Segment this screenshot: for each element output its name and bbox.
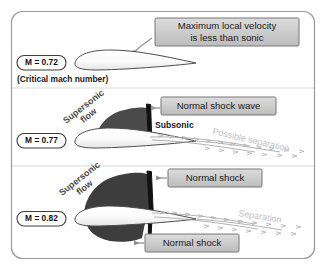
callout-max-local-velocity[interactable]: Maximum local velocity is less than soni… [155, 18, 299, 46]
callout-line-1: Normal shock [186, 172, 245, 183]
label-possible-separation: Possible separation [212, 126, 291, 153]
mach-badge-072: M = 0.72 [17, 56, 66, 71]
mach-badge-082: M = 0.82 [17, 212, 66, 227]
airfoil-shape [75, 128, 196, 148]
mach-badge-077: M = 0.77 [17, 134, 66, 149]
mach-badge-label: M = 0.82 [25, 213, 58, 223]
airfoil-shape [75, 206, 196, 226]
figure-canvas: M = 0.72 (Critical mach number) Maximum … [0, 0, 326, 270]
airfoil-shape [75, 50, 196, 70]
panel-mach-082: M = 0.82 Supersonic flow Separation Norm… [17, 160, 301, 252]
callout-normal-shock-wave[interactable]: Normal shock wave [161, 97, 276, 115]
separation-label-text: Possible separation [212, 126, 291, 153]
panel-mach-072: M = 0.72 (Critical mach number) Maximum … [17, 18, 299, 84]
mach-badge-label: M = 0.77 [25, 135, 58, 145]
critical-mach-caption: (Critical mach number) [17, 74, 108, 84]
transonic-flow-figure: M = 0.72 (Critical mach number) Maximum … [0, 0, 326, 270]
callout-normal-shock-upper[interactable]: Normal shock [168, 169, 262, 187]
callout-line-1: Normal shock wave [177, 100, 261, 111]
mach-badge-label: M = 0.72 [25, 57, 58, 67]
leader-line-max-velocity [133, 38, 152, 53]
callout-line-1: Normal shock [163, 237, 222, 248]
label-subsonic: Subsonic [155, 120, 194, 130]
callout-line-1: Maximum local velocity [178, 20, 277, 31]
panel-mach-077: M = 0.77 Supersonic flow Subsonic Possib… [17, 88, 304, 158]
callout-normal-shock-lower[interactable]: Normal shock [145, 234, 239, 252]
callout-line-2: is less than sonic [190, 32, 263, 43]
